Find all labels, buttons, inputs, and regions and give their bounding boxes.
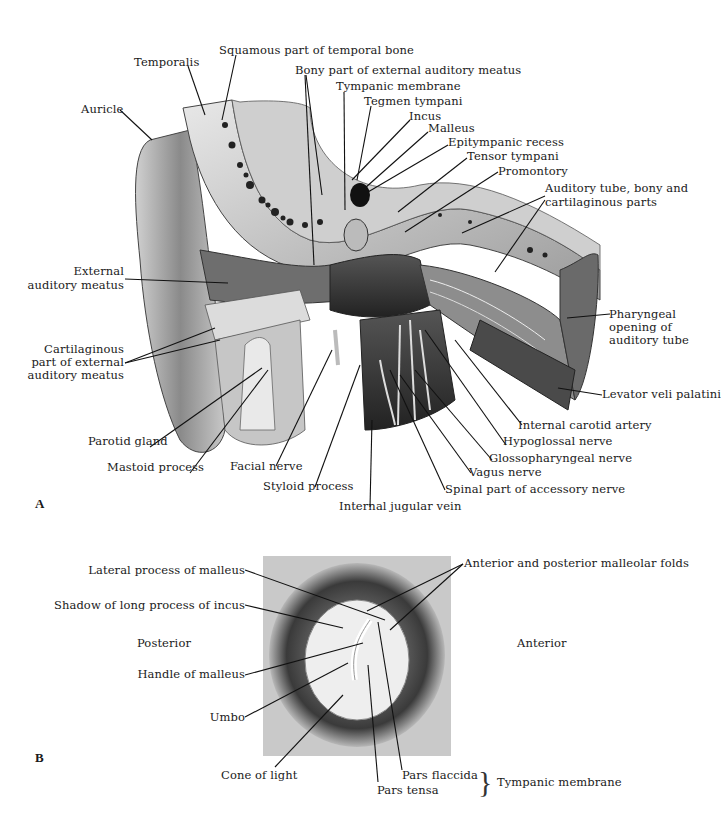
label-styloid-process: Styloid process [263, 480, 354, 493]
label-glossopharyngeal-nerve: Glossopharyngeal nerve [489, 452, 632, 465]
label-parotid-gland: Parotid gland [88, 435, 168, 448]
label-lateral-process-malleus: Lateral process of malleus [88, 564, 245, 577]
label-anterior: Anterior [517, 637, 567, 650]
label-facial-nerve: Facial nerve [230, 460, 303, 473]
label-vagus-nerve: Vagus nerve [469, 466, 542, 479]
label-external-meatus-2: auditory meatus [28, 279, 125, 292]
label-internal-jugular-vein: Internal jugular vein [339, 500, 461, 513]
label-mastoid-process: Mastoid process [107, 461, 204, 474]
panel-letter-a: A [35, 496, 44, 512]
label-internal-carotid-artery: Internal carotid artery [518, 419, 652, 432]
label-pars-tensa: Pars tensa [377, 784, 439, 797]
panel-letter-b: B [35, 750, 44, 766]
label-cartilaginous-3: auditory meatus [28, 369, 125, 382]
label-umbo: Umbo [210, 711, 245, 724]
label-promontory: Promontory [498, 165, 568, 178]
label-tensor-tympani: Tensor tympani [467, 150, 559, 163]
label-hypoglossal-nerve: Hypoglossal nerve [503, 435, 612, 448]
label-pharyngeal-3: auditory tube [609, 334, 689, 347]
label-cone-of-light: Cone of light [221, 769, 297, 782]
label-spinal-accessory-nerve: Spinal part of accessory nerve [445, 483, 625, 496]
label-pars-flaccida: Pars flaccida [402, 769, 478, 782]
label-bony-part-meatus: Bony part of external auditory meatus [295, 64, 521, 77]
label-auditory-tube-1: Auditory tube, bony and [545, 182, 688, 195]
label-auricle: Auricle [81, 103, 124, 116]
label-auditory-tube-2: cartilaginous parts [545, 196, 657, 209]
label-tympanic-membrane-a: Tympanic membrane [336, 80, 461, 93]
brace-icon: } [478, 767, 492, 797]
label-tegmen-tympani: Tegmen tympani [364, 95, 462, 108]
label-external-meatus-1: External [73, 265, 124, 278]
label-squamous-part: Squamous part of temporal bone [219, 44, 414, 57]
label-levator-veli-palatini: Levator veli palatini [602, 388, 721, 401]
label-shadow-incus: Shadow of long process of incus [54, 599, 245, 612]
label-temporalis: Temporalis [134, 56, 199, 69]
label-malleolar-folds: Anterior and posterior malleolar folds [464, 557, 689, 570]
label-malleus: Malleus [428, 122, 475, 135]
label-epitympanic-recess: Epitympanic recess [448, 136, 564, 149]
label-tympanic-membrane-b: Tympanic membrane [497, 776, 622, 789]
label-handle-malleus: Handle of malleus [137, 668, 245, 681]
label-posterior: Posterior [137, 637, 191, 650]
